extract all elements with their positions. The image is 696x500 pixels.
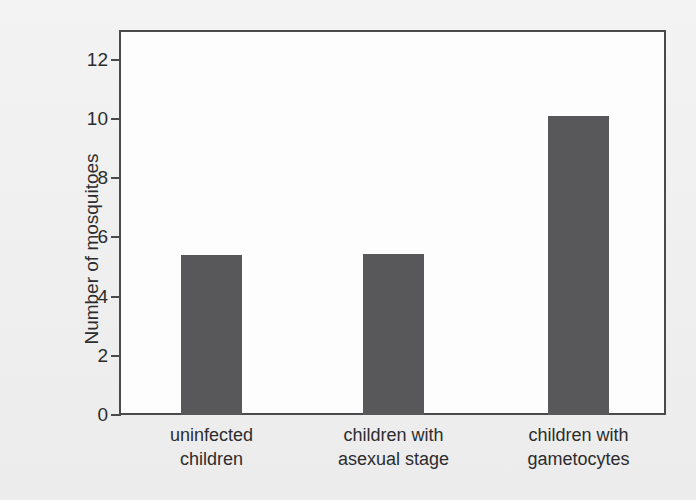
x-axis-labels: uninfectedchildrenchildren withasexual s… (119, 424, 666, 494)
x-axis-label: uninfectedchildren (117, 424, 307, 472)
y-axis-title: Number of mosquitoes (81, 119, 103, 379)
plot-area (119, 30, 666, 415)
x-axis-label-line: children (117, 448, 307, 472)
y-axis-title-container: Number of mosquitoes (38, 60, 68, 360)
x-axis-label: children withgametocytes (484, 424, 674, 472)
x-axis-label-line: gametocytes (484, 448, 674, 472)
y-axis-tick (111, 59, 121, 61)
x-axis-label-line: children with (484, 424, 674, 448)
x-axis-label: children withasexual stage (299, 424, 489, 472)
y-axis-tick-label: 0 (68, 405, 108, 424)
chart-page: 024681012 Number of mosquitoes uninfecte… (0, 0, 696, 500)
y-axis-tick (111, 236, 121, 238)
y-axis-tick (111, 296, 121, 298)
x-axis-label-line: asexual stage (299, 448, 489, 472)
y-axis-tick (111, 118, 121, 120)
y-axis-tick-label: 12 (68, 50, 108, 69)
x-axis-label-line: children with (299, 424, 489, 448)
y-axis-tick (111, 355, 121, 357)
y-axis-tick (111, 177, 121, 179)
y-axis-tick (111, 414, 121, 416)
x-axis-label-line: uninfected (117, 424, 307, 448)
